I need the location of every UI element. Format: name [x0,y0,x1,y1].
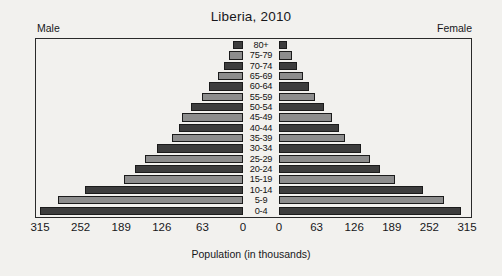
female-bar [279,196,444,204]
pyramid-row: 60-64 [35,81,472,91]
pyramid-rows: 80+75-7970-7465-6960-6455-5950-5445-4940… [35,40,472,216]
female-axis-tick: 126 [345,221,364,233]
male-bar-cell [35,123,243,133]
male-bar [85,186,243,194]
female-bar-cell [279,92,472,102]
pyramid-row: 65-69 [35,71,472,81]
male-bar [157,144,243,152]
female-bar-cell [279,123,472,133]
male-bar [182,113,243,121]
female-bar-cell [279,185,472,195]
age-group-label: 10-14 [243,185,279,195]
female-bar [279,93,315,101]
male-bar [191,103,243,111]
female-bar [279,186,423,194]
female-bar [279,62,297,70]
male-bar [58,196,243,204]
female-bar-cell [279,164,472,174]
female-bar [279,207,461,215]
female-bar [279,51,292,59]
age-group-label: 5-9 [243,195,279,205]
population-pyramid-chart: Liberia, 2010 Male Female 80+75-7970-746… [0,0,502,276]
female-bar-cell [279,81,472,91]
male-bar [40,207,243,215]
male-bar [229,51,243,59]
female-bar [279,82,309,90]
female-bar-cell [279,112,472,122]
male-bar-cell [35,143,243,153]
male-bar [145,155,243,163]
age-group-label: 25-29 [243,154,279,164]
male-bar-cell [35,164,243,174]
male-bar-cell [35,174,243,184]
age-group-label: 75-79 [243,50,279,60]
male-bar-cell [35,92,243,102]
age-group-label: 65-69 [243,71,279,81]
pyramid-row: 20-24 [35,164,472,174]
age-group-label: 40-44 [243,123,279,133]
age-group-label: 55-59 [243,92,279,102]
male-bar-cell [35,61,243,71]
male-axis-tick: 189 [112,221,131,233]
female-bar-cell [279,50,472,60]
pyramid-row: 10-14 [35,185,472,195]
female-bar [279,124,339,132]
age-group-label: 60-64 [243,81,279,91]
female-axis-tick: 63 [310,221,323,233]
male-bar-cell [35,81,243,91]
male-bar-cell [35,50,243,60]
pyramid-row: 0-4 [35,206,472,216]
female-axis-tick: 252 [420,221,439,233]
male-bar [135,165,243,173]
age-group-label: 80+ [243,40,279,50]
male-bar [209,82,243,90]
age-group-label: 0-4 [243,206,279,216]
male-bar-cell [35,40,243,50]
pyramid-row: 75-79 [35,50,472,60]
age-group-label: 50-54 [243,102,279,112]
pyramid-row: 70-74 [35,61,472,71]
male-bar-cell [35,185,243,195]
female-bar-cell [279,195,472,205]
male-bar-cell [35,102,243,112]
female-bar [279,175,395,183]
male-bar [179,124,243,132]
age-group-label: 35-39 [243,133,279,143]
pyramid-row: 35-39 [35,133,472,143]
female-bar [279,41,287,49]
age-group-label: 30-34 [243,143,279,153]
female-bar-cell [279,40,472,50]
pyramid-row: 40-44 [35,123,472,133]
x-axis-caption: Population (in thousands) [0,248,502,260]
male-axis-label: Male [37,22,60,34]
female-bar [279,113,332,121]
female-axis-tick: 0 [276,221,282,233]
age-group-label: 70-74 [243,61,279,71]
female-axis-tick: 189 [382,221,401,233]
pyramid-row: 50-54 [35,102,472,112]
male-axis-tick: 252 [71,221,90,233]
female-bar [279,72,303,80]
chart-title: Liberia, 2010 [0,9,502,24]
pyramid-row: 80+ [35,40,472,50]
female-axis-label: Female [437,22,472,34]
x-axis-ticks: 315252189126630063126189252315 [0,221,502,237]
male-axis-tick: 63 [196,221,209,233]
male-bar-cell [35,154,243,164]
pyramid-row: 30-34 [35,143,472,153]
male-axis-tick: 126 [152,221,171,233]
male-bar-cell [35,206,243,216]
female-bar-cell [279,174,472,184]
age-group-label: 45-49 [243,112,279,122]
female-bar-cell [279,102,472,112]
female-bar-cell [279,71,472,81]
female-bar [279,155,370,163]
male-bar [218,72,243,80]
male-bar [233,41,243,49]
male-bar-cell [35,195,243,205]
male-bar [202,93,243,101]
pyramid-row: 45-49 [35,112,472,122]
pyramid-row: 5-9 [35,195,472,205]
female-axis-tick: 315 [457,221,476,233]
female-bar [279,103,324,111]
